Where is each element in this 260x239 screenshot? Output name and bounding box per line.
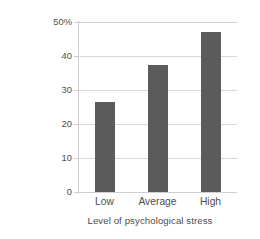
y-tick-label-50: 50% xyxy=(46,17,72,26)
y-tick-label-20: 20 xyxy=(46,119,72,128)
y-tick-label-40: 40 xyxy=(46,51,72,60)
bar-high xyxy=(201,32,221,192)
plot-area xyxy=(78,22,237,192)
bar-average xyxy=(148,65,168,193)
bar-chart-figure: Percentage of participants with respirat… xyxy=(0,0,260,239)
y-tick-label-30: 30 xyxy=(46,85,72,94)
bar-low xyxy=(95,102,115,192)
x-axis-line xyxy=(78,192,237,193)
x-tick-label-high: High xyxy=(171,196,251,208)
x-axis-title: Level of psychological stress xyxy=(55,215,245,226)
x-axis-tick-labels: LowAverageHigh xyxy=(78,196,237,212)
y-tick-label-10: 10 xyxy=(46,153,72,162)
y-tick-label-0: 0 xyxy=(46,187,72,196)
gridline-50 xyxy=(78,22,237,23)
